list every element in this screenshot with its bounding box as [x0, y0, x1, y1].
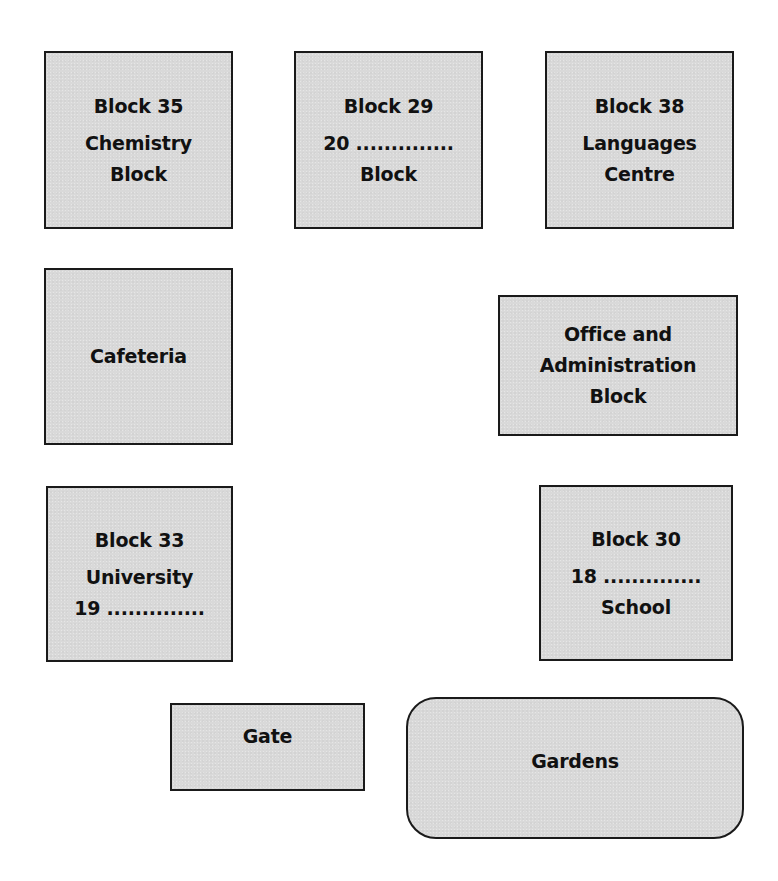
- building-name-line-3: Block: [590, 387, 647, 406]
- block-number-label: Block 35: [94, 97, 183, 116]
- building-name-line-2: Administration: [540, 356, 697, 375]
- block-38-languages-centre: Block 38 Languages Centre: [545, 51, 734, 229]
- block-35-chemistry-block: Block 35 Chemistry Block: [44, 51, 233, 229]
- answer-blank-20: 20 ..............: [323, 134, 454, 153]
- building-name-line-2: Block: [360, 165, 417, 184]
- building-name-line-2: School: [601, 598, 671, 617]
- block-number-label: Block 30: [591, 530, 680, 549]
- gardens-label: Gardens: [531, 752, 619, 771]
- block-number-label: Block 33: [95, 531, 184, 550]
- building-name: Cafeteria: [90, 347, 187, 366]
- block-30-blank-school: Block 30 18 .............. School: [539, 485, 733, 661]
- building-name-line-1: University: [86, 568, 193, 587]
- gate-label: Gate: [243, 727, 293, 746]
- building-name-line-1: Chemistry: [85, 134, 192, 153]
- gardens: Gardens: [406, 697, 744, 839]
- cafeteria: Cafeteria: [44, 268, 233, 445]
- building-name-line-2: Centre: [604, 165, 675, 184]
- gate: Gate: [170, 703, 365, 791]
- answer-blank-18: 18 ..............: [571, 567, 702, 586]
- answer-blank-19: 19 ..............: [74, 599, 205, 618]
- building-name-line-1: Languages: [582, 134, 696, 153]
- block-number-label: Block 38: [595, 97, 684, 116]
- building-name-line-2: Block: [110, 165, 167, 184]
- office-and-administration-block: Office and Administration Block: [498, 295, 738, 436]
- block-number-label: Block 29: [344, 97, 433, 116]
- block-33-university-blank: Block 33 University 19 ..............: [46, 486, 233, 662]
- block-29-blank-block: Block 29 20 .............. Block: [294, 51, 483, 229]
- building-name-line-1: Office and: [564, 325, 672, 344]
